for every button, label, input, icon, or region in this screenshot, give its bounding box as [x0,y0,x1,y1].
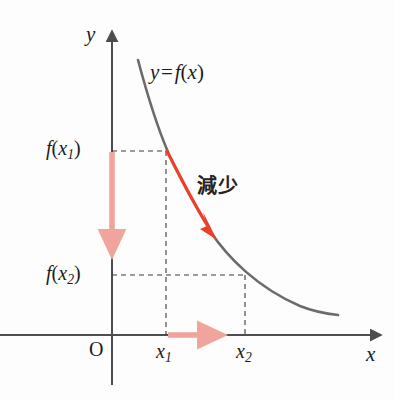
x1-tick-label: x1 [156,341,172,364]
x1-base: x [156,340,165,362]
fx1-x: x [58,137,67,159]
curve-eq-open-paren: ( [181,60,188,84]
origin-label: O [89,339,103,359]
y-axis-label: y [86,24,95,45]
decrease-annotation-label: 減少 [197,176,239,196]
x1-subscript: 1 [165,350,172,365]
fx1-label: f(x1) [46,138,81,161]
decreasing-function-figure: y x O y = f(x) f(x1) f(x2) x1 x2 減少 [0,0,395,401]
curve-eq-y: y [150,60,159,84]
x2-base: x [236,340,245,362]
fx2-subscript: 2 [67,272,74,287]
fx2-label: f(x2) [46,263,81,286]
fx2-close-paren: ) [74,262,81,284]
fx1-subscript: 1 [67,147,74,162]
x2-tick-label: x2 [236,341,252,364]
fx2-x: x [58,262,67,284]
curve-eq-equals: = [161,60,173,84]
x-axis-label: x [366,344,375,365]
x2-subscript: 2 [245,350,252,365]
curve-equation-label: y = f(x) [150,62,204,83]
function-curve-gray-right [210,231,338,315]
curve-eq-x: x [188,60,197,84]
fx1-close-paren: ) [74,137,81,159]
curve-eq-close-paren: ) [197,60,204,84]
